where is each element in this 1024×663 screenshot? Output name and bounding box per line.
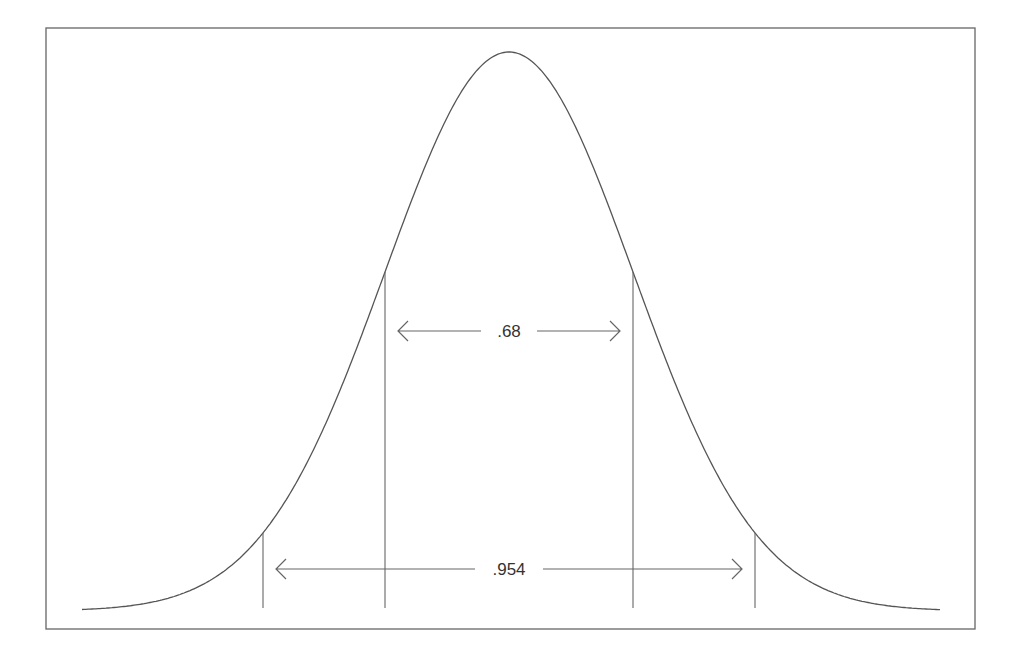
normal-distribution-diagram: .68 .954 [0,0,1024,663]
one-sigma-label: .68 [497,322,521,341]
two-sigma-label: .954 [492,560,525,579]
range-arrows [276,321,742,579]
